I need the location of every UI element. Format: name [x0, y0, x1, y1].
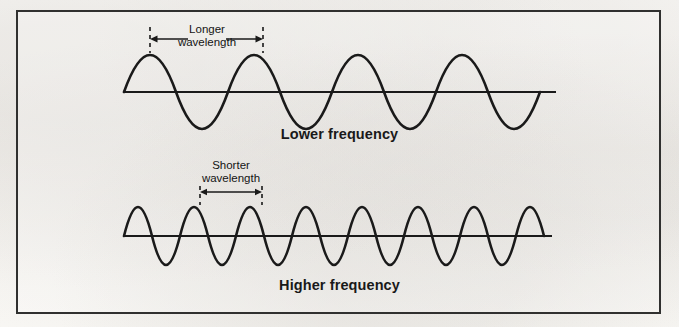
figure-page: Longer wavelength Shorter wavelength Low…: [0, 0, 679, 327]
longer-wavelength-line2: wavelength: [157, 36, 257, 49]
figure-border: [16, 10, 661, 314]
longer-wavelength-label: Longer wavelength: [157, 23, 257, 49]
higher-frequency-caption: Higher frequency: [0, 277, 679, 293]
shorter-wavelength-line1: Shorter: [181, 159, 281, 172]
shorter-wavelength-label: Shorter wavelength: [181, 159, 281, 185]
longer-wavelength-line1: Longer: [157, 23, 257, 36]
lower-frequency-caption: Lower frequency: [0, 126, 679, 142]
shorter-wavelength-line2: wavelength: [181, 172, 281, 185]
